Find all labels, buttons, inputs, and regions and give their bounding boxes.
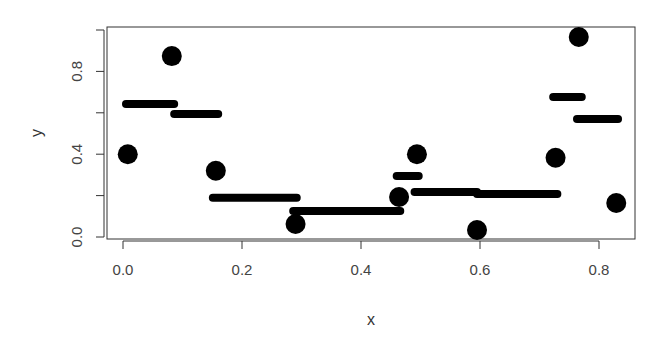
chart: 0.00.20.40.60.8 0.00.40.8 x y xyxy=(0,0,661,339)
data-point xyxy=(407,144,427,164)
data-point xyxy=(569,27,589,47)
data-point xyxy=(118,144,138,164)
x-axis: 0.00.20.40.60.8 xyxy=(113,241,610,278)
step-segments xyxy=(126,97,618,211)
x-axis-title: x xyxy=(367,311,375,328)
data-point xyxy=(606,193,626,213)
data-point xyxy=(162,46,182,66)
x-tick-label: 0.2 xyxy=(232,261,253,278)
data-point xyxy=(467,220,487,240)
data-point xyxy=(206,161,226,181)
x-tick-label: 0.8 xyxy=(589,261,610,278)
y-axis-title: y xyxy=(28,129,45,137)
y-tick-label: 0.4 xyxy=(68,144,85,165)
y-tick-label: 0.8 xyxy=(68,61,85,82)
x-tick-label: 0.6 xyxy=(470,261,491,278)
data-point xyxy=(286,214,306,234)
x-tick-label: 0.0 xyxy=(113,261,134,278)
y-axis: 0.00.40.8 xyxy=(68,30,104,247)
data-point xyxy=(546,148,566,168)
y-tick-label: 0.0 xyxy=(68,227,85,248)
data-point xyxy=(389,187,409,207)
x-tick-label: 0.4 xyxy=(351,261,372,278)
